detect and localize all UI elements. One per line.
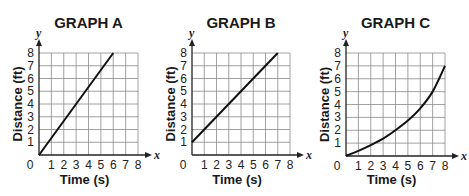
chart-title: GRAPH C: [361, 14, 430, 31]
y-tick-label: 1: [180, 135, 187, 149]
x-axis-title: Time (s): [60, 172, 110, 187]
y-tick-label: 3: [27, 110, 34, 124]
x-axis-title: Time (s): [367, 172, 417, 187]
x-tick-label: 4: [85, 158, 92, 172]
y-tick-label: 4: [334, 98, 341, 112]
y-tick-label: 3: [180, 110, 187, 124]
y-variable-label: y: [341, 26, 349, 40]
x-tick-label: 6: [110, 158, 117, 172]
x-tick-label: 2: [60, 158, 67, 172]
y-axis-arrow-icon: [343, 39, 349, 46]
x-variable-label: x: [305, 148, 312, 162]
y-tick-label: 8: [180, 46, 187, 60]
y-axis-arrow-icon: [36, 39, 42, 46]
y-tick-label: 4: [27, 97, 34, 111]
x-variable-label: x: [153, 148, 160, 162]
x-tick-label: 7: [122, 158, 129, 172]
x-tick-label: 1: [48, 158, 55, 172]
y-tick-label: 7: [180, 59, 187, 73]
graph-panel-a: GRAPH Axy01234567812345678Time (s)Distan…: [10, 14, 160, 187]
x-axis-arrow-icon: [145, 152, 152, 158]
chart-title: GRAPH B: [206, 14, 275, 31]
graphs-figure: GRAPH Axy01234567812345678Time (s)Distan…: [0, 0, 469, 196]
x-tick-label: 1: [201, 158, 208, 172]
y-axis-title: Distance (ft): [163, 66, 178, 141]
x-tick-label: 8: [135, 158, 142, 172]
x-tick-label: 5: [250, 158, 257, 172]
x-tick-label: 0: [180, 158, 187, 172]
y-variable-label: y: [34, 26, 42, 40]
graph-panel-b: GRAPH Bxy01234567812345678Time (s)Distan…: [163, 14, 312, 187]
y-tick-label: 2: [334, 123, 341, 137]
x-tick-label: 8: [442, 159, 449, 173]
x-tick-label: 6: [262, 158, 269, 172]
x-tick-label: 7: [274, 158, 281, 172]
x-tick-label: 8: [287, 158, 294, 172]
x-tick-label: 3: [225, 158, 232, 172]
y-axis-title: Distance (ft): [317, 67, 332, 142]
series-line: [192, 53, 278, 142]
y-tick-label: 2: [180, 123, 187, 137]
graph-panel-c: GRAPH Cxy01234567812345678Time (s)Distan…: [317, 14, 467, 187]
x-axis-arrow-icon: [452, 153, 459, 159]
y-axis-title: Distance (ft): [10, 66, 25, 141]
y-tick-label: 7: [27, 59, 34, 73]
x-tick-label: 4: [238, 158, 245, 172]
x-variable-label: x: [460, 149, 467, 163]
chart-title: GRAPH A: [54, 14, 123, 31]
x-tick-label: 4: [392, 159, 399, 173]
x-tick-label: 3: [380, 159, 387, 173]
x-tick-label: 1: [355, 159, 362, 173]
x-tick-label: 3: [73, 158, 80, 172]
y-axis-arrow-icon: [189, 39, 195, 46]
x-tick-label: 5: [98, 158, 105, 172]
y-tick-label: 7: [334, 59, 341, 73]
x-axis-title: Time (s): [212, 172, 262, 187]
y-tick-label: 3: [334, 110, 341, 124]
x-tick-label: 0: [334, 159, 341, 173]
x-tick-label: 2: [213, 158, 220, 172]
y-tick-label: 6: [27, 72, 34, 86]
y-tick-label: 4: [180, 97, 187, 111]
y-tick-label: 1: [27, 135, 34, 149]
y-variable-label: y: [187, 26, 195, 40]
x-axis-arrow-icon: [297, 152, 304, 158]
x-tick-label: 7: [429, 159, 436, 173]
x-tick-label: 0: [27, 158, 34, 172]
y-tick-label: 5: [27, 84, 34, 98]
y-tick-label: 6: [180, 72, 187, 86]
x-tick-label: 6: [417, 159, 424, 173]
y-tick-label: 5: [334, 85, 341, 99]
y-tick-label: 8: [27, 46, 34, 60]
x-tick-label: 5: [405, 159, 412, 173]
y-tick-label: 5: [180, 84, 187, 98]
y-tick-label: 6: [334, 72, 341, 86]
y-tick-label: 8: [334, 46, 341, 60]
y-tick-label: 2: [27, 123, 34, 137]
y-tick-label: 1: [334, 136, 341, 150]
x-tick-label: 2: [367, 159, 374, 173]
